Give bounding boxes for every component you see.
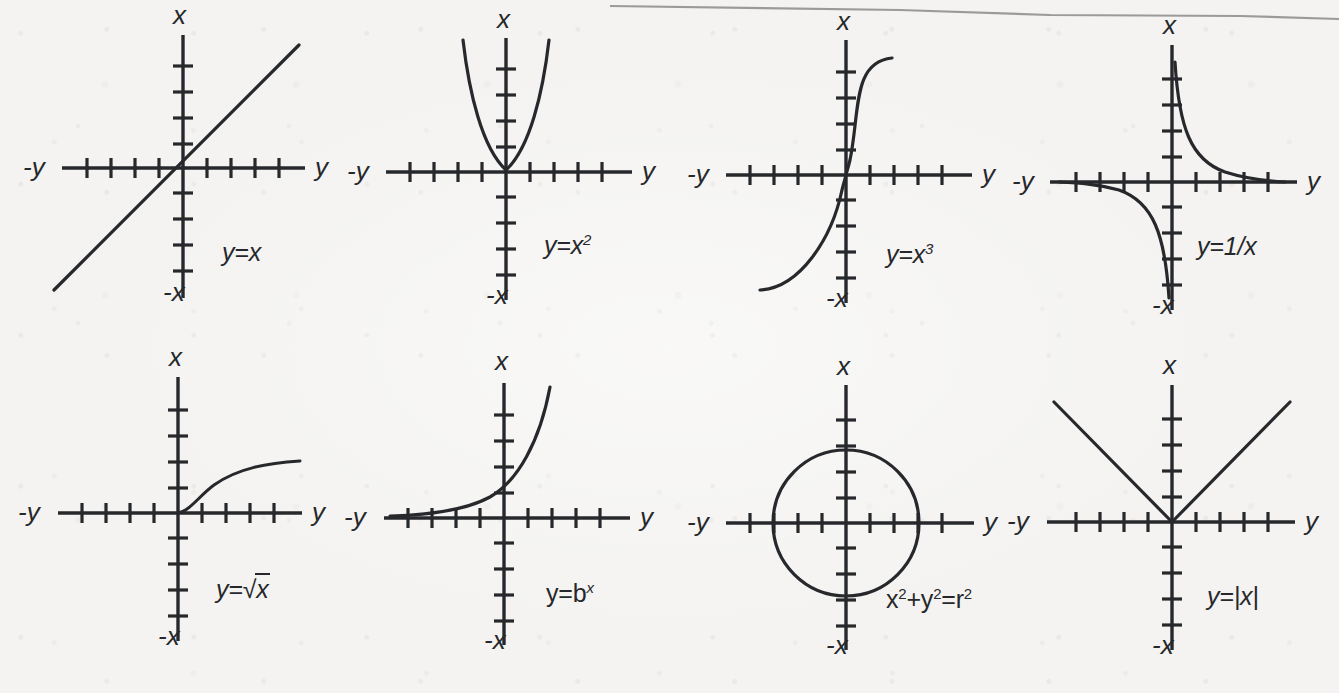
equation-text: y=x (886, 240, 925, 268)
axis-label-x-neg: -x (1152, 290, 1174, 321)
equation-text: y=x (222, 238, 261, 266)
radical-sign: √x (243, 573, 270, 604)
panel-cubic: x -x y -y y=x3 (660, 0, 1010, 340)
equation-text-3: =r (941, 585, 964, 613)
panel-square-root: x -x y -y y=√x (0, 345, 340, 693)
panel-absolute-value: x -x y -y y=|x| (985, 345, 1339, 693)
axis-label-x-neg: -x (826, 630, 848, 661)
equation-label-absolute-value: y=|x| (1207, 582, 1259, 611)
axis-label-y-pos: y (1305, 506, 1318, 537)
equation-label-quadratic: y=x2 (544, 231, 591, 260)
equation-text: y= (216, 575, 243, 603)
axis-label-y-pos: y (1307, 166, 1320, 197)
equation-exponent: 3 (925, 240, 933, 257)
axis-label-y-neg: -y (1007, 506, 1029, 537)
equation-text: y=|x| (1207, 582, 1259, 610)
axis-label-x-neg: -x (163, 277, 185, 308)
figure-sheet: x -x y -y y=x (0, 0, 1339, 693)
axis-label-x-pos: x (837, 6, 850, 37)
axis-label-y-neg: -y (687, 159, 709, 190)
axis-label-y-neg: -y (1012, 166, 1034, 197)
axes-cubic (726, 40, 972, 303)
equation-label-square-root: y=√x (216, 573, 270, 604)
axis-label-x-neg: -x (484, 625, 506, 656)
equation-label-circle: x2+y2=r2 (886, 585, 972, 614)
axis-label-x-pos: x (173, 0, 186, 31)
axis-label-x-pos: x (1163, 10, 1176, 41)
radicand: x (255, 573, 269, 604)
curve-exponential (390, 387, 550, 516)
equation-exponent: 2 (583, 231, 591, 248)
equation-label-cubic: y=x3 (886, 240, 933, 269)
axis-label-x-pos: x (495, 346, 508, 377)
equation-label-exponential: y=bx (546, 579, 594, 608)
panel-exponential: x -x y -y y=bx (322, 345, 672, 693)
axis-label-y-pos: y (642, 156, 655, 187)
equation-text: y=x (544, 231, 583, 259)
panel-circle: x -x y -y x2+y2=r2 (660, 345, 1010, 693)
equation-text-2: +y (906, 585, 933, 613)
axis-label-x-pos: x (497, 4, 510, 35)
axis-label-y-neg: -y (347, 156, 369, 187)
axis-label-x-pos: x (1163, 350, 1176, 381)
axis-label-x-neg: -x (1152, 630, 1174, 661)
branch-upper-right (1175, 62, 1285, 182)
panel-reciprocal: x -x y -y y=1/x (985, 0, 1339, 340)
equation-label-linear: y=x (222, 238, 261, 267)
axis-label-y-neg: -y (344, 502, 366, 533)
axis-label-x-neg: -x (826, 283, 848, 314)
equation-text: y=1/x (1197, 232, 1256, 260)
equation-label-reciprocal: y=1/x (1197, 232, 1256, 261)
curve-square-root (178, 461, 300, 513)
axis-label-x-pos: x (837, 351, 850, 382)
axis-label-x-neg: -x (158, 621, 180, 652)
axis-label-x-pos: x (169, 342, 182, 373)
equation-text-1: x (886, 585, 898, 613)
panel-linear: x -x y -y y=x (0, 0, 340, 340)
branch-lower-left (1059, 182, 1169, 298)
axis-label-x-neg: -x (486, 280, 508, 311)
equation-text: y=b (546, 579, 586, 607)
axis-label-y-neg: -y (18, 497, 40, 528)
equation-exponent-3: 2 (964, 585, 972, 602)
panel-quadratic: x -x y -y y=x2 (322, 0, 672, 340)
axis-label-y-neg: -y (687, 507, 709, 538)
axis-label-y-neg: -y (23, 152, 45, 183)
axes-reciprocal (1050, 45, 1297, 310)
equation-exponent: x (586, 579, 593, 596)
axis-label-y-pos: y (640, 502, 653, 533)
